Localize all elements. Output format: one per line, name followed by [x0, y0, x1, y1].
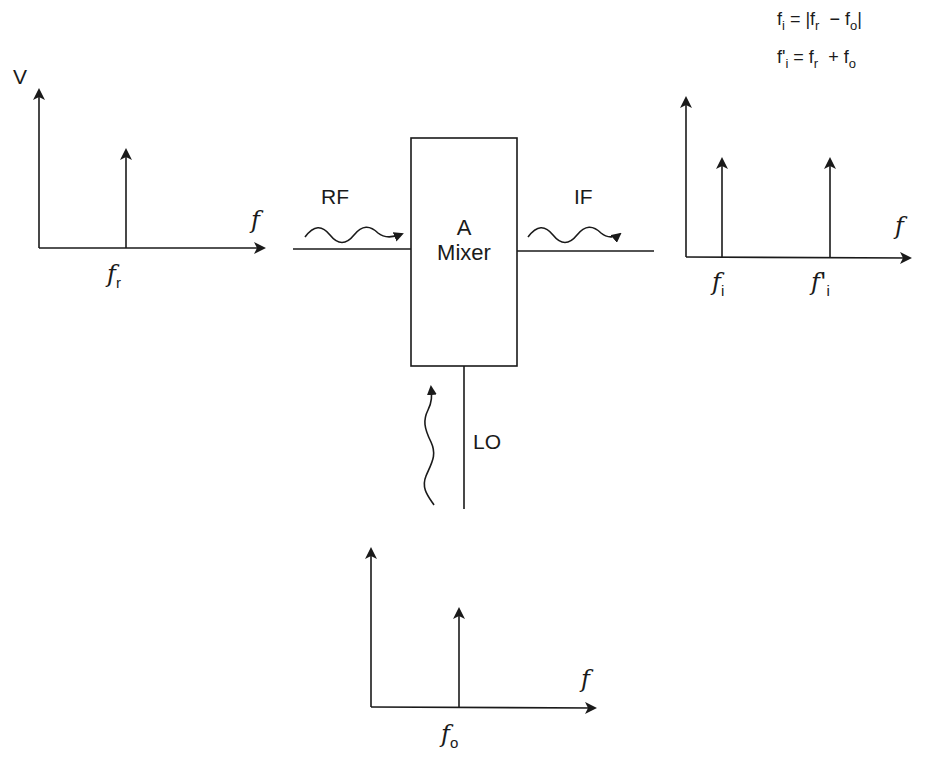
lo-x-axis — [371, 707, 595, 708]
eq1-close: | — [857, 9, 862, 29]
lo-x-axis-label: f — [581, 667, 590, 691]
input-y-axis-label: V — [13, 66, 27, 87]
if-wave-arrow — [528, 227, 620, 242]
rf-wave-arrow — [305, 227, 402, 242]
fr-sub: r — [116, 274, 121, 291]
lo-spike-label: fo — [441, 722, 458, 750]
lo-wave-arrow — [424, 387, 434, 505]
output-x-axis — [686, 257, 910, 258]
output-spectrum-plot — [686, 98, 910, 258]
input-x-axis-label: f — [251, 208, 260, 232]
rf-label: RF — [321, 186, 349, 207]
fi-label: f — [712, 268, 721, 296]
output-spike-label-fi-prime: f'i — [811, 270, 830, 298]
fi-prime-sub: i — [826, 282, 829, 299]
eq1-eq: = |f — [785, 9, 815, 29]
fi-prime-label: f' — [811, 268, 826, 296]
eq1-op: − f — [819, 9, 850, 29]
output-x-axis-label: f — [895, 214, 904, 238]
equation-sum-frequency: f'i = fr + fo — [777, 48, 856, 70]
output-spike-label-fi: fi — [712, 270, 724, 298]
mixer-label: A Mixer — [411, 215, 517, 266]
lo-label: LO — [473, 431, 501, 452]
eq2-op: + f — [818, 47, 849, 67]
input-spectrum-plot — [39, 90, 264, 248]
equation-difference-frequency: fi = |fr − fo| — [777, 10, 862, 32]
eq2-b-sub: o — [849, 56, 856, 71]
if-label: IF — [574, 186, 593, 207]
fo-sub: o — [450, 734, 458, 751]
lo-spectrum-plot — [371, 549, 595, 708]
mixer-label-line2: Mixer — [411, 240, 517, 265]
eq2-eq: = f — [788, 47, 814, 67]
fi-sub: i — [721, 282, 724, 299]
fr-label: f — [107, 260, 116, 288]
input-spike-label: fr — [107, 262, 121, 290]
fo-label: f — [441, 720, 450, 748]
mixer-diagram — [0, 0, 928, 769]
mixer-label-line1: A — [411, 215, 517, 240]
